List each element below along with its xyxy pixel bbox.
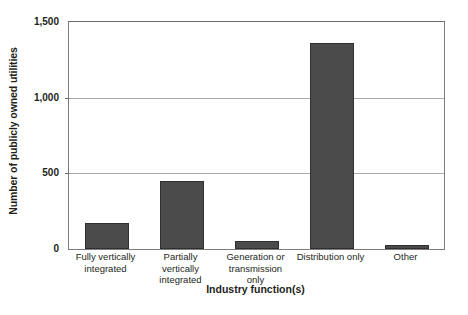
- plot-area: [68, 21, 445, 250]
- x-axis-tick-label: Fully vertically integrated: [68, 251, 143, 286]
- y-axis-title-text: Number of publicly owned utilities: [7, 47, 19, 215]
- bar[interactable]: [310, 43, 354, 249]
- y-axis-tick-label: 1,500: [34, 16, 59, 27]
- x-axis-title: Industry function(s): [68, 283, 443, 295]
- y-axis-tick-labels: 05001,0001,500: [22, 0, 64, 262]
- bar[interactable]: [160, 181, 204, 249]
- y-axis-tick-label: 500: [42, 167, 59, 178]
- bars-layer: [69, 22, 444, 249]
- x-axis-tick-label: Distribution only: [293, 251, 368, 286]
- bar-chart-figure: Number of publicly owned utilities 05001…: [0, 0, 468, 315]
- bar-slot: [369, 22, 444, 249]
- bar[interactable]: [235, 241, 279, 249]
- x-axis-tick-label: Partially vertically integrated: [143, 251, 218, 286]
- x-axis-tick-labels: Fully vertically integratedPartially ver…: [68, 251, 443, 286]
- bar[interactable]: [385, 245, 429, 249]
- bar-slot: [219, 22, 294, 249]
- x-axis-tick-label: Generation or transmission only: [218, 251, 293, 286]
- bar[interactable]: [85, 223, 129, 249]
- bar-slot: [294, 22, 369, 249]
- bar-slot: [144, 22, 219, 249]
- y-axis-tick-label: 1,000: [34, 91, 59, 102]
- y-axis-tick-label: 0: [53, 243, 59, 254]
- x-axis-tick-label: Other: [368, 251, 443, 286]
- bar-slot: [69, 22, 144, 249]
